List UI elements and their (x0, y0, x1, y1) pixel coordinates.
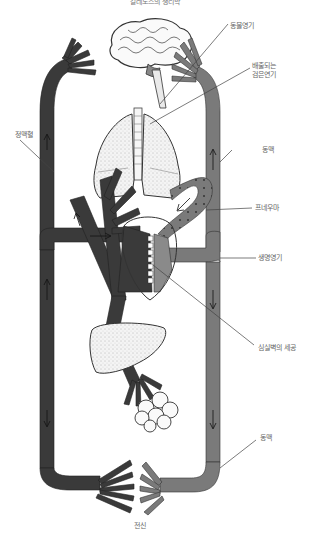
label-exhaled-smoke-1: 배출되는 (252, 62, 276, 70)
brain-icon (110, 19, 192, 108)
label-vital-spirit: 생명영기 (258, 254, 282, 262)
label-animal-spirit: 동물영기 (230, 22, 254, 30)
arterial-system (140, 38, 220, 515)
septum-pores (148, 236, 153, 283)
galen-physiology-diagram (0, 0, 319, 545)
label-artery-upper: 동맥 (262, 146, 274, 154)
label-exhaled-smoke-2: 검은연기 (252, 71, 276, 79)
label-septum-pores: 심실벽의 세공 (258, 344, 296, 352)
trachea (134, 108, 142, 180)
intestines (135, 392, 178, 432)
label-pneuma: 프네우마 (255, 204, 279, 212)
label-venous-blood: 정맥혈 (15, 131, 33, 139)
label-whole-body: 전신 (134, 522, 146, 530)
venous-system (40, 38, 162, 513)
label-artery-lower: 동맥 (260, 434, 272, 442)
liver (90, 323, 166, 373)
